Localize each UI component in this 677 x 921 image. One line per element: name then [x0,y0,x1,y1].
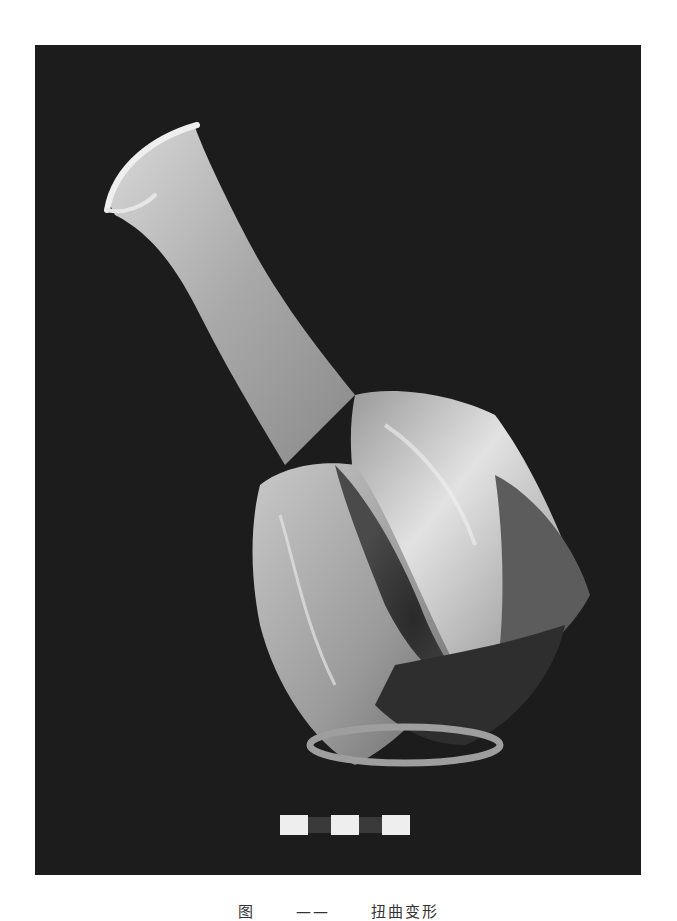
vessel-neck [110,127,355,465]
caption-number: —— [296,903,330,921]
vessel-illustration [35,45,641,875]
figure-caption: 图 —— 扭曲变形 [0,900,677,921]
scale-bar [280,815,410,835]
artifact-photo [35,45,641,875]
caption-text: 扭曲变形 [371,903,439,921]
caption-prefix: 图 [238,903,255,921]
